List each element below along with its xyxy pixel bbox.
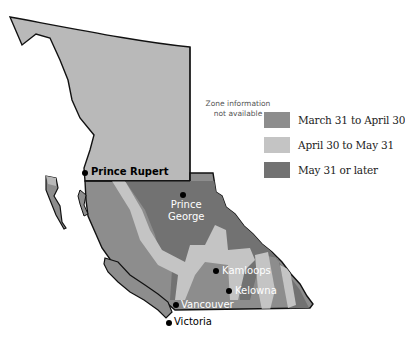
city-dot-prince-rupert xyxy=(82,170,88,176)
city-label-victoria: Victoria xyxy=(174,316,212,327)
legend-item-march-april: March 31 to April 30 xyxy=(264,112,405,128)
city-label-kamloops: Kamloops xyxy=(222,265,271,276)
city-label-kelowna: Kelowna xyxy=(235,285,277,296)
legend-swatch xyxy=(264,137,290,153)
legend-label: May 31 or later xyxy=(298,164,378,176)
note-line-1: Zone information xyxy=(193,99,283,109)
city-dot-kamloops xyxy=(213,268,219,274)
legend-swatch xyxy=(264,112,290,128)
city-dot-kelowna xyxy=(226,288,232,294)
city-dot-prince-george xyxy=(180,192,186,198)
legend-item-may-later: May 31 or later xyxy=(264,162,378,178)
legend-label: April 30 to May 31 xyxy=(298,139,394,151)
region-no-data xyxy=(10,17,190,181)
legend-label: March 31 to April 30 xyxy=(298,114,405,126)
city-label-george: George xyxy=(168,211,204,223)
city-label-prince-rupert: Prince Rupert xyxy=(91,166,168,177)
legend-item-april-may: April 30 to May 31 xyxy=(264,137,394,153)
city-label-vancouver: Vancouver xyxy=(181,299,234,310)
legend-swatch xyxy=(264,162,290,178)
city-dot-vancouver xyxy=(173,302,179,308)
city-label-prince-george: Prince George xyxy=(168,199,204,223)
city-dot-victoria xyxy=(166,320,172,326)
city-label-prince: Prince xyxy=(168,199,204,211)
